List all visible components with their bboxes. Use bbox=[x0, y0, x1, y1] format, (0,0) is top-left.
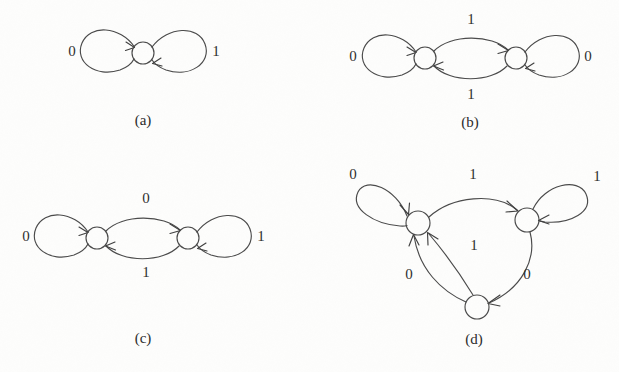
arrowhead-a-loop-1 bbox=[153, 58, 163, 66]
edge-d-loop-1 bbox=[533, 185, 588, 223]
edge-c-top-0 bbox=[106, 218, 180, 231]
edge-label-c-left-0: 0 bbox=[22, 228, 30, 244]
edge-d-top-1 bbox=[429, 199, 517, 217]
arrowhead-b-loop-0-right bbox=[526, 63, 536, 71]
edge-c-bottom-1 bbox=[106, 246, 179, 259]
edge-label-a-1: 1 bbox=[212, 43, 220, 59]
edge-label-c-top-0: 0 bbox=[142, 190, 150, 206]
caption-d: (d) bbox=[465, 331, 483, 348]
figure-page: 0 1 (a) 0 1 1 0 (b) bbox=[0, 0, 619, 372]
state-node-d1 bbox=[515, 208, 539, 232]
edge-label-d-loop-0: 0 bbox=[349, 166, 357, 182]
panel-a: 0 1 (a) bbox=[68, 30, 220, 130]
edge-label-c-bottom-1: 1 bbox=[142, 264, 150, 280]
edge-b-bottom-1 bbox=[434, 66, 507, 79]
state-node-c0 bbox=[86, 227, 108, 249]
state-node-c1 bbox=[177, 227, 199, 249]
panel-b: 0 1 1 0 (b) bbox=[349, 11, 592, 131]
edge-d-inner-1 bbox=[429, 234, 473, 295]
edge-c-loop-0-left bbox=[34, 215, 88, 257]
edge-label-b-left-0: 0 bbox=[349, 48, 357, 64]
panel-d: 0 1 1 0 1 0 (d) bbox=[349, 166, 601, 348]
edge-d-left-0 bbox=[414, 236, 466, 302]
state-diagram-figure: 0 1 (a) 0 1 1 0 (b) bbox=[0, 0, 619, 372]
caption-b: (b) bbox=[461, 114, 479, 131]
edge-d-loop-0 bbox=[356, 185, 407, 226]
panel-c: 0 0 1 1 (c) bbox=[22, 190, 265, 347]
edge-label-d-inner-1: 1 bbox=[470, 237, 478, 253]
edge-label-c-right-1: 1 bbox=[257, 228, 265, 244]
edge-label-d-right-0: 0 bbox=[523, 266, 531, 282]
state-node-b0 bbox=[414, 47, 436, 69]
state-node-d2 bbox=[465, 295, 489, 319]
edge-label-d-top-1: 1 bbox=[469, 166, 477, 182]
arrowhead-c-loop-1-right bbox=[198, 243, 208, 251]
edge-label-b-top-1: 1 bbox=[467, 11, 475, 27]
state-node-a0 bbox=[132, 42, 154, 64]
caption-a: (a) bbox=[135, 112, 152, 129]
state-node-d0 bbox=[406, 211, 430, 235]
edge-label-d-loop-1: 1 bbox=[593, 168, 601, 184]
edge-label-b-bottom-1: 1 bbox=[467, 86, 475, 102]
edge-label-a-0: 0 bbox=[68, 43, 76, 59]
state-node-b1 bbox=[505, 47, 527, 69]
edge-label-d-left-0: 0 bbox=[405, 266, 413, 282]
arrowhead-d-left-0 bbox=[409, 235, 419, 247]
caption-c: (c) bbox=[135, 330, 152, 347]
edge-b-loop-0-left bbox=[362, 35, 416, 77]
edge-b-top-1 bbox=[434, 38, 508, 51]
edge-a-loop-0 bbox=[80, 30, 134, 72]
edge-label-b-right-0: 0 bbox=[584, 48, 592, 64]
